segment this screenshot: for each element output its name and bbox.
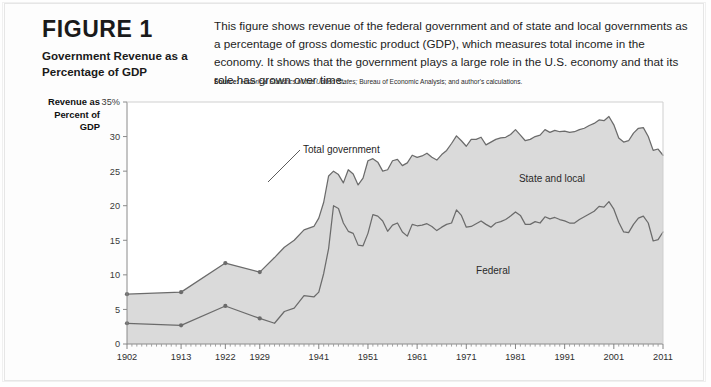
federal-label: Federal	[476, 265, 510, 276]
x-tick-label: 1929	[250, 352, 270, 362]
y-tick-label: 10	[110, 270, 120, 280]
x-tick-label: 2011	[653, 352, 673, 362]
x-tick-label: 1961	[407, 352, 427, 362]
y-tick-label: 0	[115, 339, 120, 349]
total-government-label: Total government	[303, 144, 380, 155]
chart-area: 05101520253035%1902191319221929194119511…	[0, 0, 711, 387]
x-tick-label: 1991	[554, 352, 574, 362]
x-tick-label: 1922	[215, 352, 235, 362]
x-tick-label: 2001	[604, 352, 624, 362]
x-tick-label: 1902	[117, 352, 137, 362]
y-tick-label: 30	[110, 132, 120, 142]
state-and-local-label: State and local	[519, 173, 585, 184]
total-government-point	[179, 290, 183, 294]
federal-point	[223, 304, 227, 308]
federal-point	[258, 316, 262, 320]
figure-container: FIGURE1 Government Revenue as a Percenta…	[0, 0, 711, 387]
total-government-point	[223, 261, 227, 265]
x-tick-label: 1941	[309, 352, 329, 362]
x-tick-label: 1981	[505, 352, 525, 362]
x-tick-label: 1951	[358, 352, 378, 362]
revenue-area-chart: 05101520253035%1902191319221929194119511…	[0, 0, 711, 387]
y-tick-label: 5	[115, 305, 120, 315]
y-tick-label: 20	[110, 201, 120, 211]
y-tick-label: 35%	[102, 97, 120, 107]
total-government-point	[258, 270, 262, 274]
y-tick-label: 25	[110, 167, 120, 177]
x-tick-label: 1913	[171, 352, 191, 362]
federal-point	[179, 323, 183, 327]
x-tick-label: 1971	[456, 352, 476, 362]
y-tick-label: 15	[110, 236, 120, 246]
